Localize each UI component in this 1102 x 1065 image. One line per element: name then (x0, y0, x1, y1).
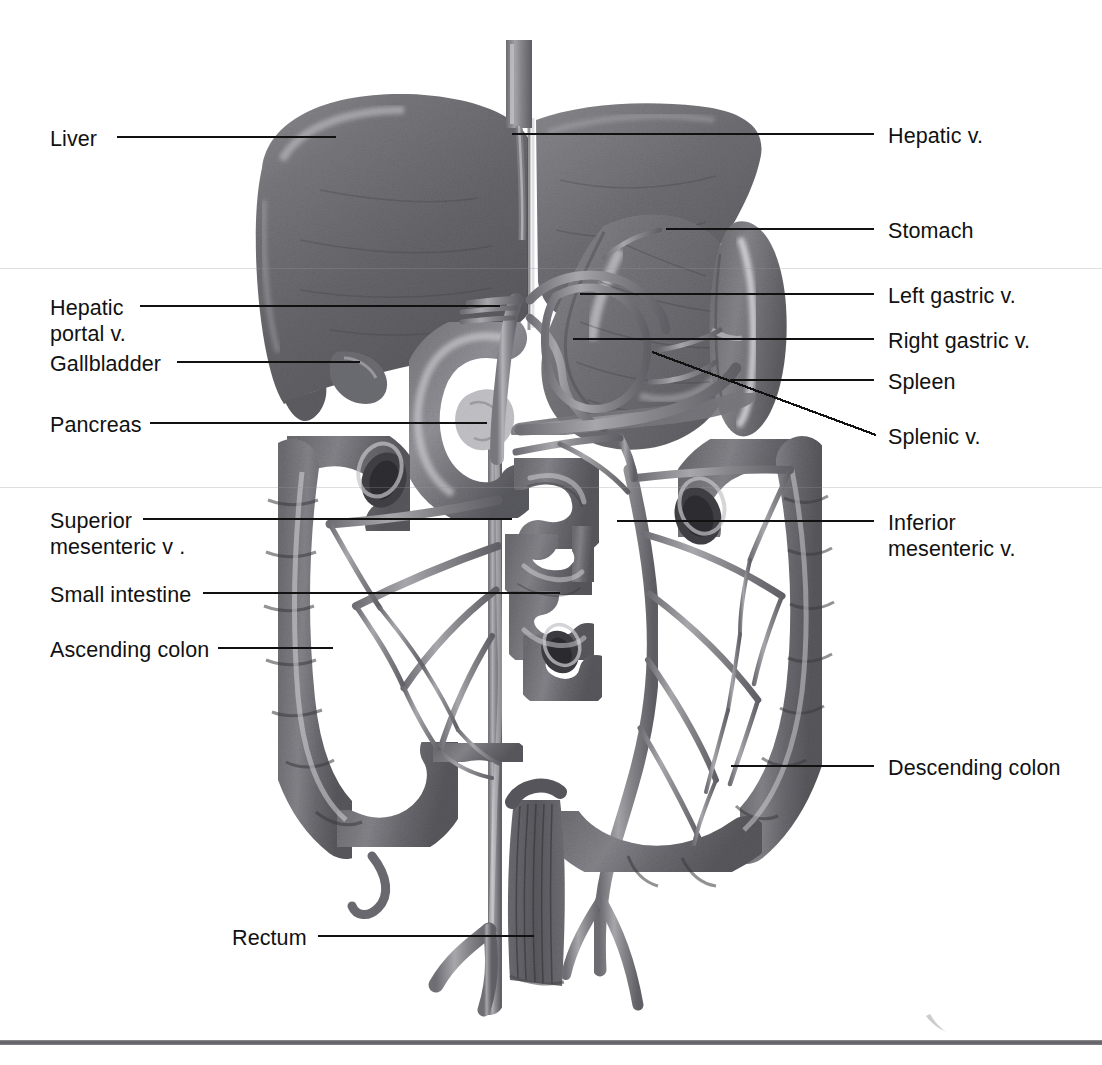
label-right-gastric-v: Right gastric v. (888, 328, 1030, 354)
label-gallbladder: Gallbladder (50, 351, 161, 377)
label-ascending-colon: Ascending colon (50, 637, 209, 663)
label-superior-mesenteric-v-line-1: Superior (50, 508, 185, 534)
label-liver: Liver (50, 126, 97, 152)
label-splenic-v-line-1: Splenic v. (888, 424, 981, 450)
label-inferior-mesenteric-v-line-1: Inferior (888, 510, 1016, 536)
scan-artifact-line (0, 487, 1102, 488)
label-gallbladder-line-1: Gallbladder (50, 351, 161, 377)
label-stomach: Stomach (888, 218, 974, 244)
label-pancreas: Pancreas (50, 412, 142, 438)
label-ascending-colon-line-1: Ascending colon (50, 637, 209, 663)
rectum (508, 786, 565, 986)
label-hepatic-v: Hepatic v. (888, 123, 983, 149)
label-spleen: Spleen (888, 369, 956, 395)
footer-rule (0, 1040, 1102, 1045)
label-inferior-mesenteric-v-line-2: mesenteric v. (888, 536, 1016, 562)
label-descending-colon: Descending colon (888, 755, 1061, 781)
label-small-intestine-line-1: Small intestine (50, 582, 191, 608)
label-left-gastric-v-line-1: Left gastric v. (888, 283, 1016, 309)
label-pancreas-line-1: Pancreas (50, 412, 142, 438)
label-liver-line-1: Liver (50, 126, 97, 152)
scan-artifact-line (0, 268, 1102, 269)
figure-page: LiverHepaticportal v.GallbladderPancreas… (0, 0, 1102, 1065)
label-small-intestine: Small intestine (50, 582, 191, 608)
label-spleen-line-1: Spleen (888, 369, 956, 395)
label-inferior-mesenteric-v: Inferiormesenteric v. (888, 510, 1016, 562)
label-descending-colon-line-1: Descending colon (888, 755, 1061, 781)
label-right-gastric-v-line-1: Right gastric v. (888, 328, 1030, 354)
label-hepatic-v-line-1: Hepatic v. (888, 123, 983, 149)
label-hepatic-portal-v-line-2: portal v. (50, 321, 126, 347)
label-splenic-v: Splenic v. (888, 424, 981, 450)
label-stomach-line-1: Stomach (888, 218, 974, 244)
label-hepatic-portal-v: Hepaticportal v. (50, 295, 126, 347)
label-left-gastric-v: Left gastric v. (888, 283, 1016, 309)
label-superior-mesenteric-v-line-2: mesenteric v . (50, 534, 185, 560)
label-superior-mesenteric-v: Superiormesenteric v . (50, 508, 185, 560)
label-rectum-line-1: Rectum (232, 925, 307, 951)
label-hepatic-portal-v-line-1: Hepatic (50, 295, 126, 321)
label-rectum: Rectum (232, 925, 307, 951)
